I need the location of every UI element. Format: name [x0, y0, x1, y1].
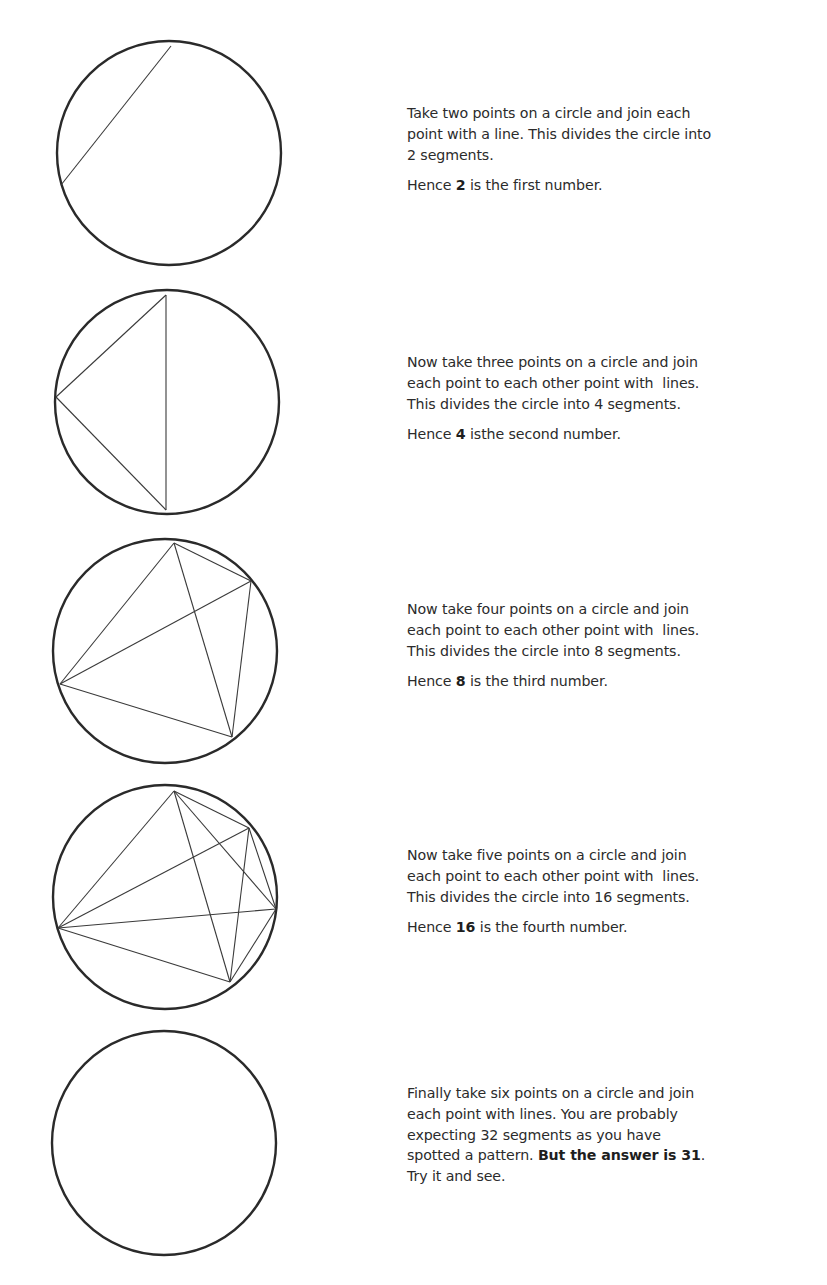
- caption-line: expecting 32 segments as you have: [407, 1125, 807, 1146]
- caption-six-points: Finally take six points on a circle and …: [407, 1083, 807, 1187]
- caption-line: Try it and see.: [407, 1166, 807, 1187]
- caption-line-answer: spotted a pattern. But the answer is 31.: [407, 1145, 807, 1166]
- answer-prefix: spotted a pattern.: [407, 1147, 538, 1163]
- answer-suffix: .: [701, 1147, 705, 1163]
- answer-statement: But the answer is 31: [538, 1147, 701, 1163]
- caption-line: each point with lines. You are probably: [407, 1104, 807, 1125]
- circle-outline: [52, 1031, 276, 1255]
- caption-line: Finally take six points on a circle and …: [407, 1083, 807, 1104]
